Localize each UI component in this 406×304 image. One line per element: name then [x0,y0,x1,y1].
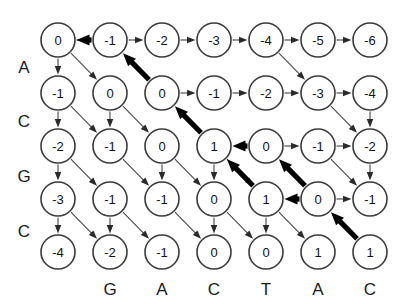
edge-thin-38-line [331,159,352,180]
edge-thin-32-line [175,212,196,233]
row-label-1: C [18,112,30,131]
node-score-value: 1 [366,245,373,260]
edge-thin-30-line [71,212,92,233]
node-score-value: 0 [314,192,321,207]
cell-node-r3-c5[interactable]: 0 [301,182,335,216]
cell-node-r1-c3[interactable]: -1 [197,76,231,110]
edge-bold-0-arrowhead [77,35,90,46]
edge-thin-14-arrowhead [55,119,62,128]
edge-bold-2-line [183,114,201,133]
edge-bold-3-arrowhead [233,141,246,152]
edge-thin-37-arrowhead [367,172,374,181]
cell-node-r1-c4[interactable]: -2 [249,76,283,110]
row-label-2: G [17,167,30,186]
cell-node-r3-c4[interactable]: 1 [249,182,283,216]
cell-node-r1-c1[interactable]: 0 [93,76,127,110]
cell-node-r1-c2[interactable]: 0 [145,76,179,110]
cell-node-r3-c6[interactable]: -1 [353,182,387,216]
edge-thin-24-line [71,106,92,127]
edge-bold-4-line [235,167,253,186]
edge-thin-27-line [123,159,144,180]
edge-thin-19-arrowhead [159,172,166,181]
col-label-2: C [208,280,220,299]
node-score-value: -4 [364,86,376,101]
edge-thin-3-arrowhead [239,37,248,44]
cell-node-r0-c3[interactable]: -3 [197,23,231,57]
node-score-value: -1 [364,192,376,207]
cell-node-r2-c5[interactable]: -1 [301,129,335,163]
cell-node-r0-c4[interactable]: -4 [249,23,283,57]
cell-node-r4-c5[interactable]: 1 [301,235,335,269]
cell-node-r2-c2[interactable]: 0 [145,129,179,163]
edge-thin-1-arrowhead [135,37,144,44]
node-score-value: -1 [52,86,64,101]
node-score-value: 0 [210,192,217,207]
edge-thin-31-line [123,212,144,233]
node-score-value: 0 [54,33,61,48]
node-score-value: -2 [104,245,116,260]
node-score-value: 0 [210,245,217,260]
cell-node-r4-c3[interactable]: 0 [197,235,231,269]
node-score-value: 0 [158,139,165,154]
node-score-value: -2 [364,139,376,154]
edge-thin-4-arrowhead [291,37,300,44]
node-score-value: 0 [262,245,269,260]
cell-node-r2-c4[interactable]: 0 [249,129,283,163]
cell-node-r4-c0[interactable]: -4 [41,235,75,269]
cell-node-r0-c1[interactable]: -1 [93,23,127,57]
edge-thin-2-arrowhead [187,37,196,44]
cell-node-r0-c2[interactable]: -2 [145,23,179,57]
cell-node-r1-c6[interactable]: -4 [353,76,387,110]
cell-node-r1-c5[interactable]: -3 [301,76,335,110]
edge-thin-33-line [227,212,248,233]
node-score-value: -3 [52,192,64,207]
cell-node-r0-c6[interactable]: -6 [353,23,387,57]
cell-node-r3-c3[interactable]: 0 [197,182,231,216]
cell-node-r4-c6[interactable]: 1 [353,235,387,269]
node-score-value: 0 [106,86,113,101]
cell-node-r1-c0[interactable]: -1 [41,76,75,110]
col-label-4: A [312,280,324,299]
edge-thin-22-arrowhead [263,225,270,234]
node-score-value: -2 [260,86,272,101]
cell-node-r0-c5[interactable]: -5 [301,23,335,57]
cell-node-r2-c6[interactable]: -2 [353,129,387,163]
node-score-value: -4 [260,33,272,48]
cell-node-r4-c2[interactable]: -1 [145,235,179,269]
cell-node-r3-c2[interactable]: -1 [145,182,179,216]
node-score-value: -2 [52,139,64,154]
edge-bold-5-line [287,167,305,186]
cell-node-r2-c3[interactable]: 1 [197,129,231,163]
edge-thin-17-arrowhead [107,119,114,128]
edge-thin-11-arrowhead [343,143,352,150]
edge-thin-34-line [279,212,300,233]
cell-node-r3-c0[interactable]: -3 [41,182,75,216]
cell-node-r2-c1[interactable]: -1 [93,129,127,163]
cell-node-r2-c0[interactable]: -2 [41,129,75,163]
edge-thin-15-arrowhead [55,172,62,181]
node-score-value: -1 [208,86,220,101]
edge-thin-21-arrowhead [211,225,218,234]
node-score-value: 1 [314,245,321,260]
edge-thin-7-arrowhead [239,90,248,97]
col-label-3: T [261,280,271,299]
column-sequence-labels: GACTAC [103,280,376,299]
figure-canvas: 0-1-2-3-4-5-6-100-1-2-3-4-2-1010-1-2-3-1… [0,0,406,304]
node-score-value: -1 [156,245,168,260]
edge-thin-8-arrowhead [291,90,300,97]
edge-thin-12-arrowhead [343,196,352,203]
edge-thin-39-arrowhead [367,119,374,128]
cell-node-r4-c4[interactable]: 0 [249,235,283,269]
alignment-grid-figure: 0-1-2-3-4-5-6-100-1-2-3-4-2-1010-1-2-3-1… [0,0,406,304]
cell-node-r0-c0[interactable]: 0 [41,23,75,57]
cell-node-r4-c1[interactable]: -2 [93,235,127,269]
edge-thin-25-line [123,106,144,127]
edge-thin-10-arrowhead [291,143,300,150]
node-score-value: -5 [312,33,324,48]
row-sequence-labels: ACGC [17,58,30,241]
edge-bold-6-arrowhead [285,194,298,205]
edge-thin-16-arrowhead [55,225,62,234]
cell-node-r3-c1[interactable]: -1 [93,182,127,216]
node-score-value: -2 [156,33,168,48]
node-score-value: -3 [208,33,220,48]
